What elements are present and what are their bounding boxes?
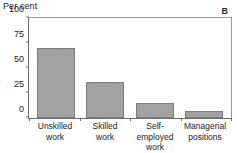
bar <box>86 82 124 118</box>
y-axis-tick-label: 100 <box>9 5 29 14</box>
x-axis-category-label: Unskilledwork <box>30 121 80 153</box>
x-axis-category-label: Self-employedwork <box>130 121 180 153</box>
y-axis-tick-label: 0 <box>19 105 29 114</box>
bar-slot <box>81 18 131 118</box>
bar <box>185 111 223 118</box>
bar-slot <box>180 18 230 118</box>
x-axis-category-label-line: Unskilled <box>30 121 80 132</box>
bar-series <box>29 18 231 118</box>
x-axis-category-label: Skilledwork <box>80 121 130 153</box>
y-axis-tick-label: 25 <box>14 80 29 89</box>
x-axis-category-label-line: positions <box>180 132 230 143</box>
y-axis-tick-label: 75 <box>14 30 29 39</box>
bar-slot <box>31 18 81 118</box>
bar-slot <box>130 18 180 118</box>
x-axis-category-label-line: Managerial <box>180 121 230 132</box>
bar <box>136 103 174 118</box>
x-axis-category-labels: UnskilledworkSkilledworkSelf-employedwor… <box>28 121 232 153</box>
panel-letter-label: B <box>222 6 229 16</box>
x-axis-category-label-line: work <box>80 132 130 143</box>
x-axis-category-label-line: work <box>30 132 80 143</box>
y-axis-tick-label: 50 <box>14 55 29 64</box>
x-axis-category-label-line: Self-employed <box>130 121 180 142</box>
bar <box>37 48 75 118</box>
plot-area: 0255075100 <box>28 17 232 119</box>
x-axis-category-label: Managerialpositions <box>180 121 230 153</box>
x-axis-category-label-line: work <box>130 142 180 153</box>
bar-chart-panel-b: Per cent B 0255075100 UnskilledworkSkill… <box>0 0 237 153</box>
x-axis-category-label-line: Skilled <box>80 121 130 132</box>
